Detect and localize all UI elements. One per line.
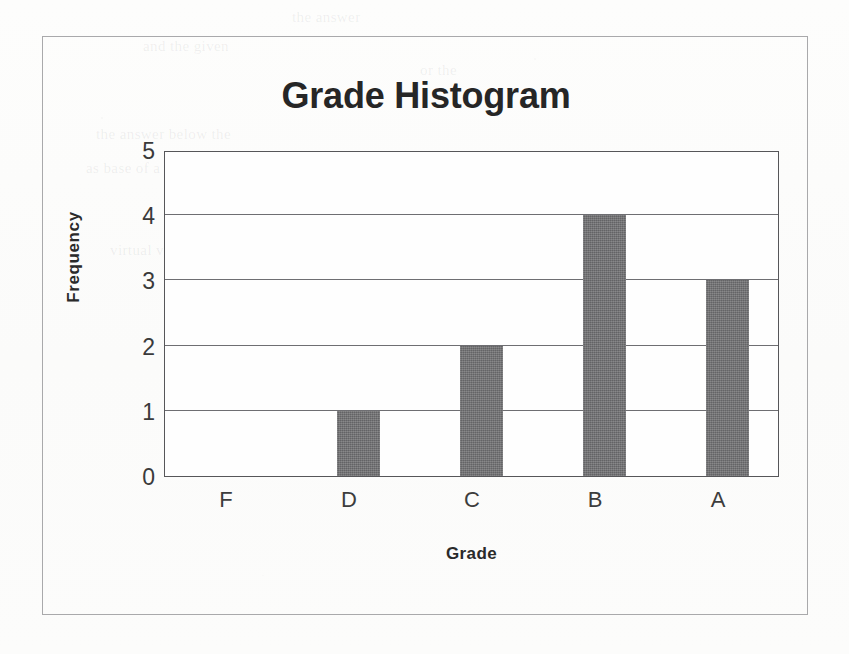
y-tick-label: 1 bbox=[121, 398, 155, 425]
y-axis-tick-labels: 012345 bbox=[115, 151, 155, 477]
bar bbox=[583, 215, 626, 476]
x-tick-label: C bbox=[442, 487, 502, 513]
gridline bbox=[165, 214, 778, 215]
x-axis-title: Grade bbox=[164, 544, 779, 564]
x-tick-label: A bbox=[688, 487, 748, 513]
x-tick-label: F bbox=[196, 487, 256, 513]
y-tick-label: 5 bbox=[121, 138, 155, 165]
x-tick-label: B bbox=[565, 487, 625, 513]
x-tick-label: D bbox=[319, 487, 379, 513]
bar bbox=[706, 280, 749, 476]
bar bbox=[460, 346, 503, 476]
chart-title: Grade Histogram bbox=[43, 75, 809, 117]
chart-frame: Grade Histogram Frequency 012345 FDCBA G… bbox=[42, 36, 808, 615]
y-tick-label: 2 bbox=[121, 333, 155, 360]
y-tick-label: 0 bbox=[121, 464, 155, 491]
y-axis-title: Frequency bbox=[64, 197, 84, 317]
y-tick-label: 4 bbox=[121, 203, 155, 230]
x-axis-tick-labels: FDCBA bbox=[164, 487, 779, 521]
gridline bbox=[165, 279, 778, 280]
bar bbox=[337, 411, 380, 476]
y-tick-label: 3 bbox=[121, 268, 155, 295]
plot-area bbox=[164, 151, 779, 477]
